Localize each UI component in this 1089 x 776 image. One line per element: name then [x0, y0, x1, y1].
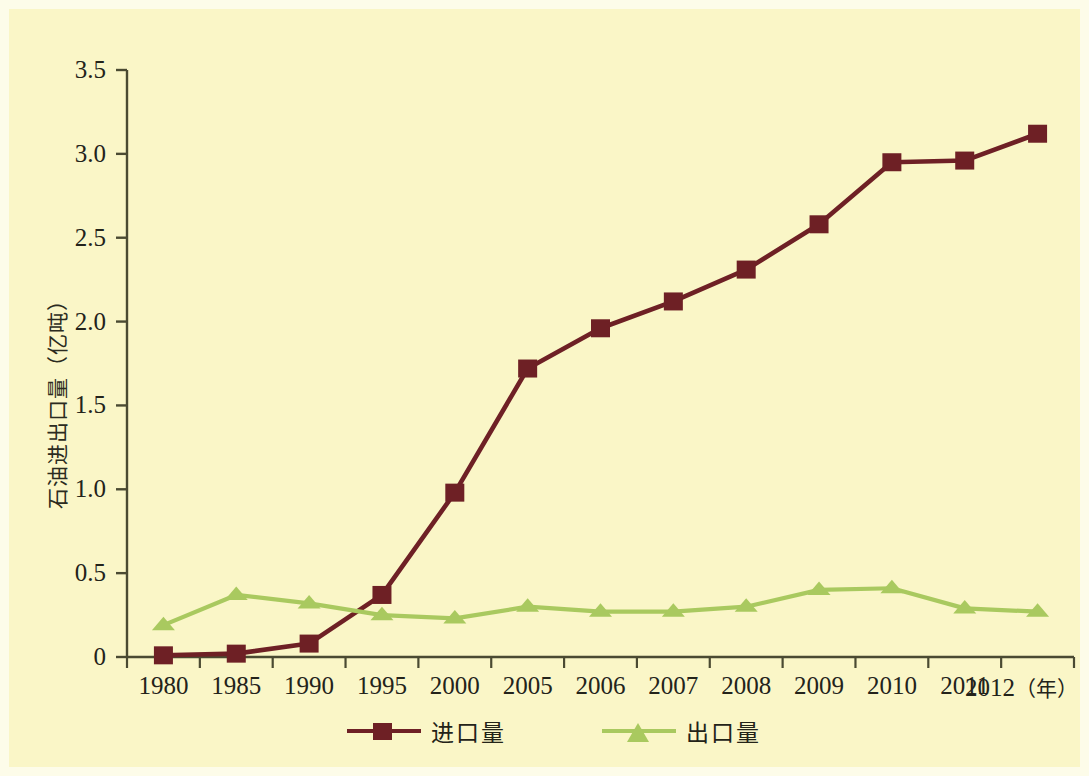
data-point-marker: [227, 645, 246, 663]
data-point-marker: [810, 215, 829, 233]
data-point-marker: [1028, 125, 1047, 143]
legend-key: [602, 720, 676, 742]
legend-label: 出口量: [686, 714, 761, 748]
data-point-marker: [300, 635, 319, 653]
data-point-marker: [737, 261, 756, 279]
data-series: [152, 125, 1049, 665]
data-point-marker: [372, 586, 391, 604]
series-import: [154, 125, 1047, 665]
chart-figure: 石油进出口量（亿吨） 00.51.01.52.02.53.03.5 198019…: [0, 0, 1089, 776]
data-point-marker: [664, 292, 683, 310]
data-point-marker: [516, 598, 539, 612]
legend-triangle-marker-icon: [627, 723, 649, 742]
series-export: [152, 580, 1049, 630]
data-point-marker: [445, 484, 464, 502]
data-point-marker: [882, 153, 901, 171]
data-point-marker: [591, 319, 610, 337]
data-point-marker: [154, 646, 173, 664]
legend-square-marker-icon: [373, 723, 392, 740]
data-point-marker: [225, 587, 248, 601]
data-point-marker: [518, 360, 537, 378]
chart-legend: 进口量出口量: [9, 714, 1089, 748]
plot-area: [9, 9, 1089, 776]
legend-item-export[interactable]: 出口量: [602, 714, 761, 748]
legend-label: 进口量: [431, 714, 506, 748]
legend-key: [347, 720, 421, 742]
series-line: [163, 134, 1037, 656]
data-point-marker: [955, 152, 974, 170]
legend-item-import[interactable]: 进口量: [347, 714, 506, 748]
